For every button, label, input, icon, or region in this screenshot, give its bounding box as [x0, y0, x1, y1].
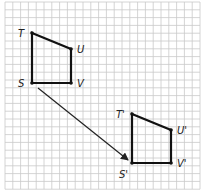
vertex-point-s-prime: [130, 161, 134, 165]
vertex-label-s-prime: S': [119, 169, 128, 180]
vertex-label-u: U: [77, 44, 85, 55]
vertex-label-v: V: [77, 78, 85, 89]
vertex-point-t: [30, 31, 34, 35]
vertex-label-t: T: [18, 28, 25, 39]
vertex-label-s: S: [18, 78, 25, 89]
vertex-point-s: [30, 81, 34, 85]
vertex-labels: TUVST'U'V'S': [18, 28, 187, 180]
translation-diagram: TUVST'U'V'S': [0, 0, 210, 196]
vertex-point-v-prime: [169, 161, 173, 165]
vertex-point-v: [69, 81, 73, 85]
vertex-point-u-prime: [169, 128, 173, 132]
vertex-label-u-prime: U': [177, 125, 187, 136]
vertex-label-v-prime: V': [177, 158, 187, 169]
vertex-label-t-prime: T': [116, 109, 125, 120]
vertex-point-u: [69, 47, 73, 51]
vertex-point-t-prime: [130, 112, 134, 116]
